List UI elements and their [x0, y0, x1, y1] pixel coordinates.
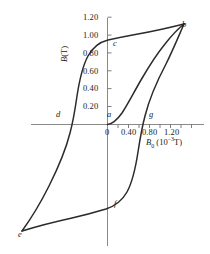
point-label-b: b — [182, 20, 186, 29]
curve-initial-magnetization — [108, 24, 185, 125]
point-label-g: g — [149, 110, 153, 119]
y-tick-label-0-20: 0.20 — [83, 102, 98, 111]
point-label-c: c — [113, 39, 117, 48]
y-tick-label-0-80: 0.80 — [83, 49, 98, 58]
y-tick-label-1-20: 1.20 — [83, 13, 98, 22]
y-tick-label-0-40: 0.40 — [83, 84, 98, 93]
x-axis-title: B0 (10−3T) — [146, 136, 182, 149]
x-tick-label-0-40: 0.40 — [121, 128, 136, 137]
y-axis-ticks — [108, 17, 112, 106]
point-label-f: f — [114, 199, 116, 208]
y-axis-title: B(T) — [60, 46, 69, 62]
hysteresis-figure: 1.20 1.00 0.80 0.60 0.40 0.20 0 0.40 0.8… — [0, 0, 210, 254]
point-label-a: a — [107, 110, 111, 119]
y-tick-label-1-00: 1.00 — [83, 31, 98, 40]
y-tick-label-0-60: 0.60 — [83, 67, 98, 76]
x-tick-label-origin: 0 — [105, 128, 109, 137]
point-label-d: d — [56, 110, 60, 119]
point-label-e: e — [18, 230, 22, 239]
